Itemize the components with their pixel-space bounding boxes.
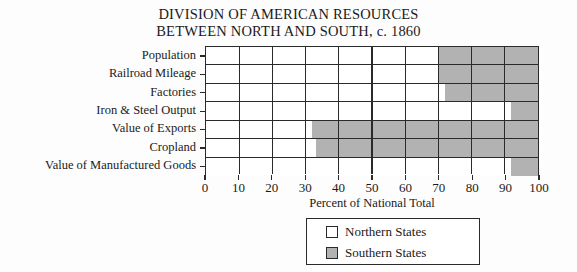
plot-area — [205, 46, 539, 175]
bar-segment-southern-states — [312, 121, 538, 138]
y-axis-label: Factories — [0, 86, 201, 99]
bar-segment-southern-states — [316, 139, 538, 156]
x-axis-tick-label: 100 — [519, 180, 559, 195]
bar-row — [206, 121, 538, 139]
bar-row — [206, 65, 538, 83]
bar-row — [206, 47, 538, 65]
bar-segment-northern-states — [206, 84, 445, 101]
chart-title: DIVISION OF AMERICAN RESOURCES BETWEEN N… — [0, 6, 577, 40]
chart-legend: Northern States Southern States — [306, 218, 480, 265]
bar-rows — [206, 47, 538, 174]
y-axis-label: Population — [0, 49, 201, 62]
bar-segment-southern-states — [511, 158, 538, 176]
bar-segment-southern-states — [511, 102, 538, 119]
bar-segment-northern-states — [206, 102, 511, 119]
bar-row — [206, 102, 538, 120]
bar-segment-southern-states — [438, 47, 538, 64]
bar-row — [206, 84, 538, 102]
legend-label-northern-states: Northern States — [345, 225, 426, 238]
bar-segment-northern-states — [206, 121, 312, 138]
chart-title-line-1: DIVISION OF AMERICAN RESOURCES — [0, 6, 577, 23]
legend-label-southern-states: Southern States — [345, 246, 426, 259]
bar-segment-southern-states — [445, 84, 538, 101]
bar-row — [206, 158, 538, 176]
chart-title-line-2: BETWEEN NORTH AND SOUTH, c. 1860 — [0, 23, 577, 40]
bar-segment-northern-states — [206, 65, 438, 82]
bar-segment-southern-states — [438, 65, 538, 82]
chart-figure: DIVISION OF AMERICAN RESOURCES BETWEEN N… — [0, 0, 577, 272]
y-axis-label: Value of Exports — [0, 122, 201, 135]
y-axis-label: Railroad Mileage — [0, 67, 201, 80]
legend-item-northern-states: Northern States — [326, 221, 479, 242]
y-axis-label: Value of Manufactured Goods — [0, 159, 201, 172]
legend-swatch-southern-states — [326, 247, 338, 259]
legend-swatch-northern-states — [326, 226, 338, 238]
y-axis-label: Cropland — [0, 141, 201, 154]
x-axis-title: Percent of National Total — [205, 196, 539, 211]
legend-item-southern-states: Southern States — [326, 242, 479, 263]
bar-segment-northern-states — [206, 47, 438, 64]
bar-segment-northern-states — [206, 139, 316, 156]
bar-segment-northern-states — [206, 158, 511, 176]
bar-row — [206, 139, 538, 157]
y-axis-label: Iron & Steel Output — [0, 104, 201, 117]
y-axis-labels: PopulationRailroad MileageFactoriesIron … — [0, 46, 201, 175]
